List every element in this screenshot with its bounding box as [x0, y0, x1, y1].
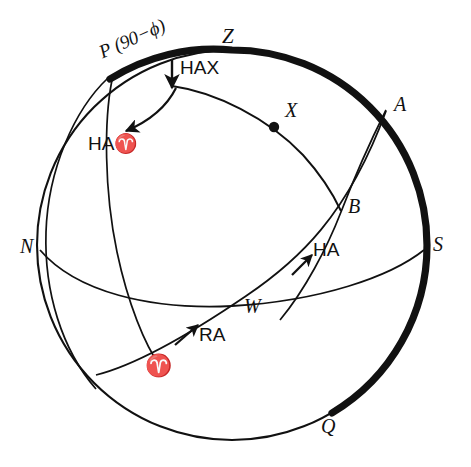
label-north: N: [20, 236, 33, 256]
label-point-a: A: [394, 94, 406, 114]
label-star-x: X: [285, 100, 297, 120]
ha-aries-arrow: [126, 88, 176, 131]
ra-direction-arrow: [175, 325, 198, 345]
pole-to-lower-left-arc: [46, 78, 108, 389]
label-point-b: B: [348, 196, 360, 216]
ecliptic-meridian-from-pole: [107, 80, 160, 366]
label-west: W: [244, 296, 261, 316]
label-point-q: Q: [321, 416, 335, 436]
label-ha-x: HAX: [180, 58, 219, 77]
horizon-circle: [40, 250, 424, 307]
label-ha: HA: [313, 240, 339, 259]
hour-circle-through-star: [172, 86, 341, 211]
celestial-equator: [96, 111, 386, 375]
star-x-point: [269, 122, 279, 132]
celestial-sphere-figure: P (90−ϕ) Z HAX HA♈ X A B N S W HA RA ♈ Q: [0, 0, 471, 467]
label-zenith: Z: [222, 26, 234, 47]
label-ha-aries: HA♈: [88, 134, 138, 153]
label-aries: ♈: [145, 355, 172, 377]
label-ra: RA: [199, 325, 225, 344]
sphere-drawing: [0, 0, 471, 467]
label-south: S: [433, 234, 443, 254]
